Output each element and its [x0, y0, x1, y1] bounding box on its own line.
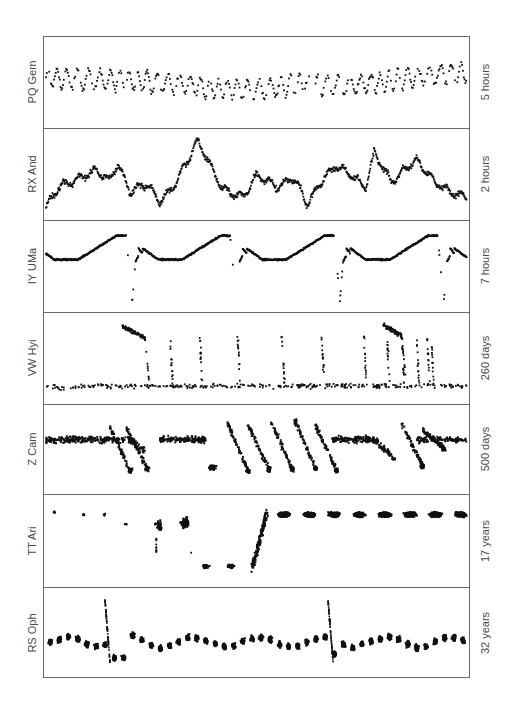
- light-curve-pq-gem: [43, 36, 470, 128]
- star-name-label-vw-hyi: VW Hyi: [26, 340, 38, 377]
- light-curve-rx-and: [43, 128, 470, 220]
- star-name-label-z-cam: Z Cam: [26, 433, 38, 466]
- timespan-label-tt-ari: 17 years: [479, 519, 491, 561]
- timespan-label-rx-and: 2 hours: [479, 156, 491, 193]
- light-curve-z-cam: [43, 404, 470, 494]
- light-curve-tt-ari: [43, 494, 470, 587]
- light-curve-vw-hyi: [43, 312, 470, 404]
- light-curve-iy-uma: [43, 220, 470, 312]
- timespan-label-rs-oph: 32 years: [479, 611, 491, 653]
- star-name-label-rx-and: RX And: [26, 155, 38, 192]
- star-name-label-rs-oph: RS Oph: [26, 613, 38, 652]
- light-curves-figure: PQ Gem5 hoursRX And2 hoursIY UMa7 hoursV…: [0, 0, 515, 713]
- timespan-label-vw-hyi: 260 days: [479, 336, 491, 381]
- timespan-label-z-cam: 500 days: [479, 427, 491, 472]
- light-curve-rs-oph: [43, 587, 470, 678]
- timespan-label-pq-gem: 5 hours: [479, 64, 491, 101]
- star-name-label-tt-ari: TT Ari: [26, 526, 38, 555]
- star-name-label-pq-gem: PQ Gem: [26, 61, 38, 104]
- star-name-label-iy-uma: IY UMa: [26, 248, 38, 284]
- timespan-label-iy-uma: 7 hours: [479, 248, 491, 285]
